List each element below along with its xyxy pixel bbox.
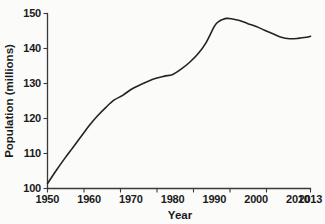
chart-figure: Population (millions) Year 1001101201301… [0, 0, 325, 224]
chart-canvas: Population (millions) Year [0, 0, 325, 224]
x-axis-label: Year [168, 209, 193, 221]
y-tick-label: 140 [23, 42, 41, 54]
y-tick-label: 110 [24, 147, 41, 159]
population-line [48, 18, 311, 183]
x-tick-label: 2013 [0, 193, 325, 205]
y-tick-label: 150 [23, 7, 41, 19]
y-tick-label: 130 [23, 77, 41, 89]
y-tick-label: 100 [23, 182, 41, 194]
y-tick-label: 120 [23, 112, 41, 124]
y-axis-label: Population (millions) [3, 44, 15, 158]
